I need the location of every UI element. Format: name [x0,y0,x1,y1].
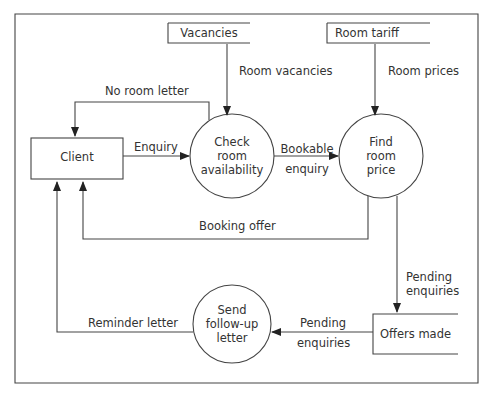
store-label: Vacancies [168,26,250,40]
process-label: price [339,163,423,177]
entity-client: Client [31,150,123,164]
process-send: Send follow-up letter [193,303,271,345]
flow-label: enquiry [280,159,334,179]
process-label: room [190,149,274,163]
process-label: follow-up [193,317,271,331]
flow-room-vacancies: Room vacancies [239,64,333,78]
process-check: Check room availability [190,135,274,177]
entity-label: Client [31,150,123,164]
process-label: letter [193,331,271,345]
process-label: availability [190,163,274,177]
flow-label: Bookable [280,139,334,159]
flow-label: Pending [406,270,459,284]
process-label: Find [339,135,423,149]
flow-bookable-enquiry: Bookable enquiry [280,139,334,179]
flow-label: enquiries [297,333,349,353]
store-offers: Offers made [373,327,458,341]
store-vacancies: Vacancies [168,26,250,40]
flow-reminder-letter: Reminder letter [88,316,178,330]
flow-no-room-letter: No room letter [105,84,189,98]
flow-pending-enquiries-down: Pending enquiries [406,270,459,298]
process-find: Find room price [339,135,423,177]
process-label: Send [193,303,271,317]
flow-label: Pending [297,313,349,333]
process-label: Check [190,135,274,149]
flow-enquiry: Enquiry [134,140,178,154]
store-label: Offers made [373,327,458,341]
flow-room-prices: Room prices [388,64,459,78]
flow-label: enquiries [406,284,459,298]
flow-pending-enquiries-left: Pending enquiries [297,313,349,353]
flow-booking-offer: Booking offer [199,219,276,233]
process-label: room [339,149,423,163]
store-label: Room tariff [327,26,407,40]
store-tariff: Room tariff [327,26,407,40]
